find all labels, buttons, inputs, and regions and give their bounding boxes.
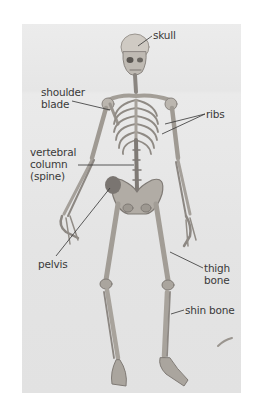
right-leg (156, 204, 188, 386)
label-line: bone (204, 274, 230, 286)
label-line: shoulder (41, 86, 85, 98)
label-line: column (30, 158, 76, 170)
spine (133, 140, 141, 190)
label-line: thigh (204, 262, 230, 274)
label-shin-bone: shin bone (185, 304, 234, 316)
shin-bone-leader-line (171, 310, 184, 314)
label-line: (spine) (30, 170, 76, 182)
label-ribs: ribs (206, 108, 225, 120)
ribs-leader-line-2 (162, 114, 205, 134)
label-pelvis: pelvis (38, 258, 67, 270)
pelvis-leader-line (56, 188, 110, 256)
label-line: blade (41, 98, 85, 110)
label-shoulder-blade: shoulder blade (41, 86, 85, 110)
thigh-bone-leader-line (170, 252, 203, 268)
skeleton-illustration (0, 0, 259, 416)
label-skull: skull (153, 29, 176, 41)
left-leg (100, 204, 126, 386)
label-vertebral-column: vertebral column (spine) (30, 146, 76, 182)
label-thigh-bone: thigh bone (204, 262, 230, 286)
right-arm (172, 108, 196, 246)
label-line: vertebral (30, 146, 76, 158)
skull-bone (121, 34, 149, 75)
